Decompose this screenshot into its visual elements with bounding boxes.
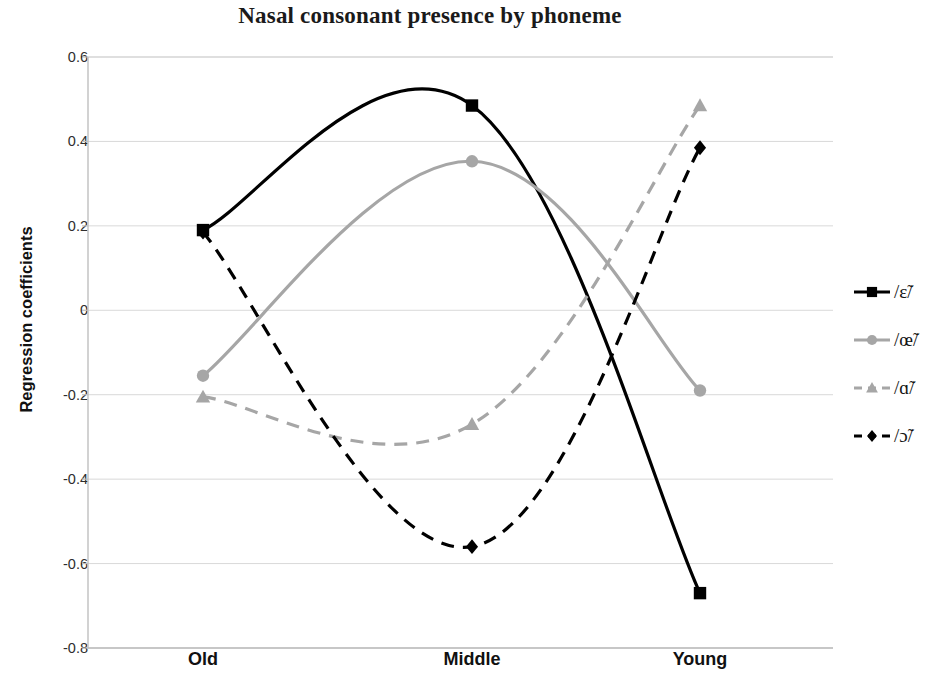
series-data-point bbox=[694, 587, 706, 599]
legend-item-label: /ɔ̃/ bbox=[894, 425, 913, 447]
data-series-group bbox=[196, 89, 707, 599]
plot-area bbox=[0, 0, 927, 679]
chart-legend: /ɛ̃//œ̃//ɑ̃//ɔ̃/ bbox=[852, 268, 927, 460]
series-data-point bbox=[694, 384, 706, 396]
legend-item[interactable]: /ɛ̃/ bbox=[852, 268, 927, 316]
series-data-point bbox=[466, 99, 478, 111]
series-data-point bbox=[466, 539, 478, 554]
axis-lines bbox=[82, 57, 833, 648]
grid-lines bbox=[88, 57, 833, 648]
series-data-point bbox=[693, 98, 707, 111]
legend-marker-icon bbox=[852, 426, 892, 446]
legend-item[interactable]: /œ̃/ bbox=[852, 316, 927, 364]
legend-marker-icon bbox=[852, 330, 892, 350]
legend-marker-icon bbox=[852, 378, 892, 398]
legend-item-label: /ɑ̃/ bbox=[894, 377, 915, 399]
series-data-point bbox=[465, 417, 479, 430]
legend-item-label: /œ̃/ bbox=[894, 329, 918, 351]
chart-figure: Nasal consonant presence by phoneme Regr… bbox=[0, 0, 927, 679]
series-line bbox=[203, 161, 700, 390]
legend-item[interactable]: /ɑ̃/ bbox=[852, 364, 927, 412]
series-data-point bbox=[197, 370, 209, 382]
series-line bbox=[203, 148, 700, 548]
legend-marker-icon bbox=[852, 282, 892, 302]
legend-item-label: /ɛ̃/ bbox=[894, 281, 913, 303]
series-data-point bbox=[466, 155, 478, 167]
legend-item[interactable]: /ɔ̃/ bbox=[852, 412, 927, 460]
